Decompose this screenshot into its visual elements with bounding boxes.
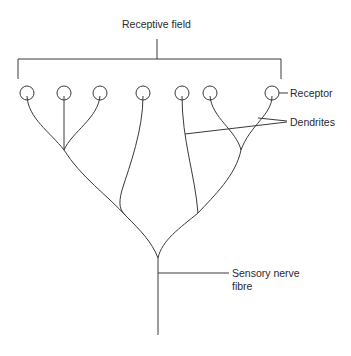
dendrites-label: Dendrites xyxy=(290,116,335,128)
receptive-field-label: Receptive field xyxy=(122,18,191,30)
sensory-nerve-label-line1: Sensory nerve xyxy=(232,267,300,279)
receptive-field-bracket xyxy=(18,39,281,79)
diagram-drawing xyxy=(0,0,351,356)
receptor-label: Receptor xyxy=(290,87,333,99)
receptive-field-diagram: Receptive field Receptor Dendrites Senso… xyxy=(0,0,351,356)
receptors xyxy=(20,86,279,100)
sensory-nerve-label-line2: fibre xyxy=(232,280,252,292)
dendrites xyxy=(27,96,272,335)
dendrites-pointer-2 xyxy=(258,118,287,121)
pointer-lines xyxy=(158,93,288,273)
dendrites-pointer-1 xyxy=(185,122,287,134)
